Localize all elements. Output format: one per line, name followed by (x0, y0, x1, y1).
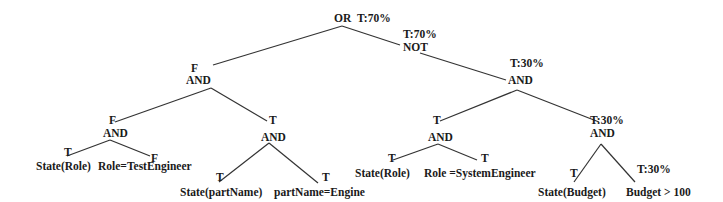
leaf-lr-b-value: T (322, 171, 330, 183)
leaf-rr-b-label: Budget > 100 (626, 186, 691, 198)
and-rr-value: T:30% (590, 114, 624, 126)
leaf-ll-b-label: Role=TestEngineer (98, 160, 192, 172)
and-rl-op: AND (428, 131, 453, 143)
and-lr-value: T (269, 114, 277, 126)
leaf-rr-b-value: T:30% (637, 163, 671, 175)
root-op: OR (334, 12, 351, 24)
root-value: T:70% (357, 12, 391, 24)
leaf-rl-a-label: State(Role) (355, 167, 410, 179)
root-or-node: OR T:70% (334, 12, 391, 24)
not-node-op: NOT (403, 41, 428, 53)
leaf-ll-a-value: T (64, 146, 72, 158)
and-ll-value: F (109, 114, 116, 126)
leaf-rl-b-value: T (481, 152, 489, 164)
and-left-op: AND (186, 74, 211, 86)
and-rr-op: AND (590, 127, 615, 139)
not-node-value: T:70% (403, 28, 437, 40)
leaf-lr-a-label: State(partName) (180, 186, 262, 198)
and-right-value: T:30% (510, 57, 544, 69)
leaf-rr-a-label: State(Budget) (538, 186, 606, 198)
fault-tree-diagram: OR T:70% T:70% NOT F AND T:30% AND F AND… (0, 0, 723, 202)
and-right-op: AND (508, 74, 533, 86)
leaf-rl-a-value: T (388, 152, 396, 164)
and-lr-op: AND (261, 131, 286, 143)
leaf-lr-b-label: partName=Engine (274, 186, 365, 198)
leaf-rl-b-label: Role =SystemEngineer (424, 167, 536, 179)
leaf-lr-a-value: T (216, 171, 224, 183)
and-rl-value: T (433, 114, 441, 126)
and-ll-op: AND (103, 127, 128, 139)
and-left-value: F (191, 62, 198, 74)
leaf-rr-a-value: T (570, 167, 578, 179)
leaf-ll-a-label: State(Role) (36, 160, 91, 172)
